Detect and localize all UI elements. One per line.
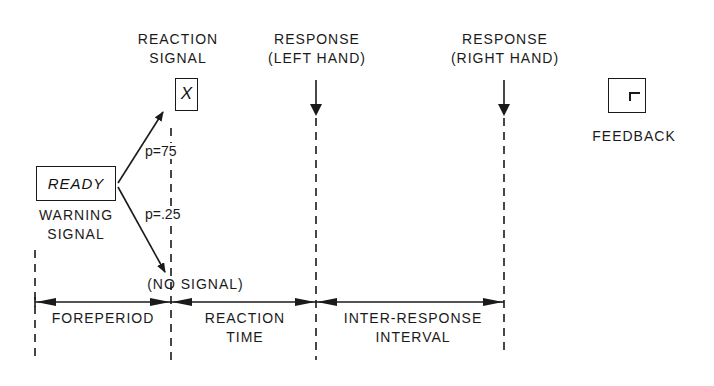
arrowhead-right-response xyxy=(498,104,510,116)
reaction-time-label-line2: TIME xyxy=(180,328,310,347)
reaction-time-label: REACTION TIME xyxy=(180,309,310,347)
reaction-time-label-line1: REACTION xyxy=(180,309,310,328)
inter-response-label-line2: INTERVAL xyxy=(328,328,498,347)
warning-signal-label: WARNING SIGNAL xyxy=(28,206,124,244)
upper-branch-probability: p=75 xyxy=(144,143,178,159)
inter-response-label-line1: INTER-RESPONSE xyxy=(328,309,498,328)
warning-signal-label-line2: SIGNAL xyxy=(28,225,124,244)
no-signal-label: (NO SIGNAL) xyxy=(138,275,253,294)
arrowhead-left-response xyxy=(310,104,322,116)
feedback-corner-icon xyxy=(629,92,640,101)
reaction-signal-label-line2: SIGNAL xyxy=(128,49,228,68)
response-right-label-line2: (RIGHT HAND) xyxy=(440,49,570,68)
reaction-signal-box: X xyxy=(175,78,198,111)
feedback-box xyxy=(608,78,646,113)
response-left-label: RESPONSE (LEFT HAND) xyxy=(262,30,372,68)
response-right-label-line1: RESPONSE xyxy=(440,30,570,49)
warning-signal-label-line1: WARNING xyxy=(28,206,124,225)
branch-arrow-no-signal xyxy=(118,187,165,272)
inter-response-interval-label: INTER-RESPONSE INTERVAL xyxy=(328,309,498,347)
response-left-label-line2: (LEFT HAND) xyxy=(262,49,372,68)
reaction-signal-label: REACTION SIGNAL xyxy=(128,30,228,68)
response-right-label: RESPONSE (RIGHT HAND) xyxy=(440,30,570,68)
x-symbol: X xyxy=(176,84,197,104)
reaction-signal-label-line1: REACTION xyxy=(128,30,228,49)
lower-branch-probability: p=.25 xyxy=(144,206,181,222)
feedback-label: FEEDBACK xyxy=(582,127,686,146)
response-left-label-line1: RESPONSE xyxy=(262,30,372,49)
ready-text: READY xyxy=(37,175,115,192)
foreperiod-label: FOREPERIOD xyxy=(38,309,168,328)
ready-warning-box: READY xyxy=(36,166,116,201)
